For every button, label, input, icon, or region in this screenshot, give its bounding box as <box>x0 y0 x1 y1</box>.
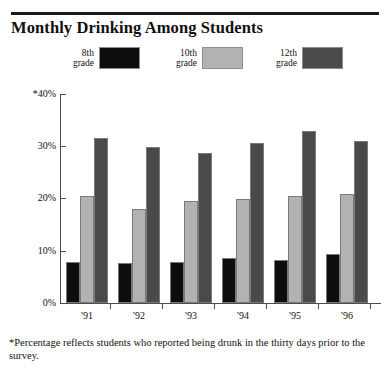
bar <box>184 201 198 303</box>
chart-page: Monthly Drinking Among Students 8th grad… <box>0 0 387 380</box>
x-axis-tick-label: '93 <box>171 310 211 321</box>
bar <box>302 131 316 303</box>
y-axis-tick-label: 10% <box>4 245 56 256</box>
y-axis-tick <box>61 251 66 252</box>
legend-swatch-12th-grade <box>302 47 343 69</box>
legend-item-10th-grade: 10th grade <box>165 44 243 72</box>
bar <box>118 263 132 303</box>
bar <box>146 147 160 303</box>
y-axis-tick-label: 0% <box>4 297 56 308</box>
chart-legend: 8th grade 10th grade 12th grade <box>0 44 387 72</box>
legend-label-10th-grade: 10th grade <box>165 48 197 69</box>
bar <box>198 153 212 303</box>
y-axis-tick-label: *40% <box>4 88 56 99</box>
bar <box>340 194 354 303</box>
x-axis-tick-label: '95 <box>275 310 315 321</box>
x-axis-tick <box>318 304 319 309</box>
y-axis-tick <box>61 94 66 95</box>
header-rule <box>11 12 379 15</box>
bar <box>354 141 368 303</box>
y-axis-tick <box>61 198 66 199</box>
bar <box>80 196 94 303</box>
bar <box>170 262 184 303</box>
y-axis-line <box>60 94 61 304</box>
x-axis-tick <box>266 304 267 309</box>
x-axis-tick <box>162 304 163 309</box>
chart-title: Monthly Drinking Among Students <box>11 18 263 38</box>
x-axis-tick-label: '94 <box>223 310 263 321</box>
legend-item-12th-grade: 12th grade <box>265 44 343 72</box>
bar <box>274 260 288 303</box>
bar <box>326 254 340 303</box>
legend-label-8th-grade: 8th grade <box>62 48 94 69</box>
x-axis-line <box>60 303 381 304</box>
x-axis-tick-label: '92 <box>119 310 159 321</box>
bar <box>66 262 80 303</box>
y-axis-tick <box>61 303 66 304</box>
bar <box>236 199 250 303</box>
x-axis-tick <box>110 304 111 309</box>
y-axis-tick-label: 20% <box>4 192 56 203</box>
bar <box>222 258 236 304</box>
legend-label-12th-grade: 12th grade <box>265 48 297 69</box>
bar <box>288 196 302 303</box>
y-axis-tick <box>61 146 66 147</box>
bar <box>94 138 108 303</box>
x-axis-tick <box>370 304 371 309</box>
chart-footnote: *Percentage reflects students who report… <box>9 337 381 362</box>
x-axis-tick-label: '91 <box>67 310 107 321</box>
bar <box>132 209 146 303</box>
y-axis-tick-label: 30% <box>4 140 56 151</box>
legend-swatch-8th-grade <box>99 47 140 69</box>
bar <box>250 143 264 303</box>
x-axis-tick <box>214 304 215 309</box>
x-axis-tick-label: '96 <box>327 310 367 321</box>
legend-swatch-10th-grade <box>202 47 243 69</box>
legend-item-8th-grade: 8th grade <box>62 44 140 72</box>
